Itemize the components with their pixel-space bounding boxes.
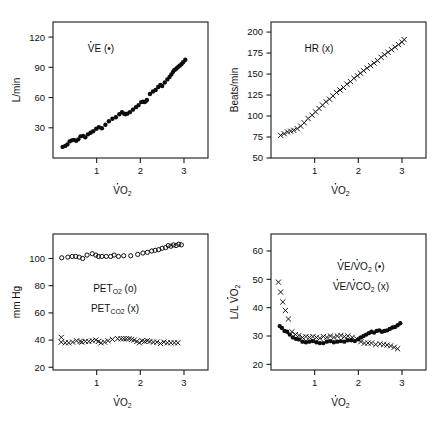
svg-text:VO2​: VO2​ <box>113 397 131 409</box>
x-tick-label: 3 <box>181 165 186 176</box>
x-tick-label: 1 <box>312 165 317 176</box>
x-tick-label: 1 <box>94 165 99 176</box>
y-tick-label: 30 <box>252 330 263 341</box>
svg-text:Beats/min: Beats/min <box>229 68 240 112</box>
y-tick-label: 40 <box>34 334 45 345</box>
y-tick-label: 150 <box>247 68 263 79</box>
y-axis-ticks: 306090120 <box>29 32 53 134</box>
y-tick-label: 125 <box>247 89 263 100</box>
panel-ventilation: 306090120123L/minVO2​VE (•) <box>0 0 218 217</box>
legend: VE/VO2​ (•)VE/VCO2​ (x) <box>333 259 389 293</box>
series-hr <box>278 37 406 137</box>
y-tick-label: 80 <box>34 280 45 291</box>
y-tick-label: 90 <box>34 62 45 73</box>
y-tick-label: 200 <box>247 26 263 37</box>
x-tick-label: 2 <box>356 377 361 388</box>
series-ve <box>60 58 187 150</box>
y-axis-ticks: 2030405060 <box>252 245 271 369</box>
y-axis-title: L/min <box>11 78 22 102</box>
y-axis-title: Beats/min <box>229 68 240 112</box>
legend-entry: VE/VO2​ (•) <box>337 259 384 273</box>
x-axis-title: VO2​ <box>331 183 349 197</box>
data-layer <box>278 37 406 137</box>
y-tick-label: 100 <box>247 110 263 121</box>
x-tick-label: 2 <box>138 377 143 388</box>
y-tick-label: 30 <box>34 122 45 133</box>
svg-text:HR (x): HR (x) <box>305 43 334 54</box>
svg-text:VO2​: VO2​ <box>331 397 349 409</box>
svg-text:VO2​: VO2​ <box>113 185 131 197</box>
x-tick-label: 2 <box>356 165 361 176</box>
series-petco2 <box>59 335 180 346</box>
x-tick-label: 3 <box>399 165 404 176</box>
y-tick-label: 20 <box>252 359 263 370</box>
y-tick-label: 75 <box>252 131 263 142</box>
y-tick-label: 50 <box>252 274 263 285</box>
panel-heart-rate: 5075100125150175200123Beats/minVO2​HR (x… <box>218 0 436 217</box>
x-axis-ticks: 123 <box>94 370 187 388</box>
x-axis-title: VO2​ <box>113 183 131 197</box>
series-peto2 <box>60 242 184 260</box>
legend: HR (x) <box>305 43 334 54</box>
svg-text:mm Hg: mm Hg <box>11 286 22 318</box>
panel-pet-svg: 20406080100123mm HgVO2​PETO2​ (o)PETCO2​… <box>0 212 218 429</box>
plot-frame <box>53 22 208 158</box>
x-axis-ticks: 123 <box>94 158 187 176</box>
x-tick-label: 1 <box>312 377 317 388</box>
svg-text:VE/VCO2​ (x): VE/VCO2​ (x) <box>333 281 389 293</box>
x-tick-label: 1 <box>94 377 99 388</box>
y-axis-title: mm Hg <box>11 286 22 318</box>
data-layer <box>60 58 187 150</box>
svg-text:PETCO2​ (x): PETCO2​ (x) <box>91 303 139 315</box>
x-axis-ticks: 123 <box>312 158 405 176</box>
x-axis-ticks: 123 <box>312 370 405 388</box>
svg-text:L/min: L/min <box>11 78 22 102</box>
y-tick-label: 50 <box>252 152 263 163</box>
x-tick-label: 3 <box>399 377 404 388</box>
x-tick-label: 2 <box>138 165 143 176</box>
y-axis-ticks: 5075100125150175200 <box>247 26 271 163</box>
svg-text:VE (•): VE (•) <box>88 43 114 54</box>
x-axis-title: VO2​ <box>331 395 349 409</box>
legend-entry: HR (x) <box>305 43 334 54</box>
panel-equiv-svg: 2030405060123L/L VO2​VO2​VE/VO2​ (•)VE/V… <box>218 212 436 429</box>
panel-ventilatory-equivalents: 2030405060123L/L VO2​VO2​VE/VO2​ (•)VE/V… <box>218 212 436 429</box>
x-axis-title: VO2​ <box>113 395 131 409</box>
y-axis-ticks: 20406080100 <box>29 253 53 373</box>
exercise-physiology-figure: 306090120123L/minVO2​VE (•) 507510012515… <box>0 0 436 429</box>
legend-entry: PETCO2​ (x) <box>91 303 139 315</box>
y-tick-label: 175 <box>247 47 263 58</box>
y-axis-title: L/L VO2​ <box>227 285 241 320</box>
svg-text:PETO2​ (o): PETO2​ (o) <box>93 283 137 295</box>
legend-entry: VE/VCO2​ (x) <box>333 279 389 293</box>
svg-text:VE/VO2​ (•): VE/VO2​ (•) <box>337 261 384 273</box>
svg-text:L/L VO2​: L/L VO2​ <box>229 285 241 320</box>
legend-entry: PETO2​ (o) <box>93 283 137 295</box>
y-tick-label: 100 <box>29 253 45 264</box>
panel-ve-svg: 306090120123L/minVO2​VE (•) <box>0 0 218 217</box>
panel-hr-svg: 5075100125150175200123Beats/minVO2​HR (x… <box>218 0 436 217</box>
plot-frame <box>271 234 426 370</box>
x-tick-label: 3 <box>181 377 186 388</box>
y-tick-label: 20 <box>34 362 45 373</box>
panel-end-tidal-pressures: 20406080100123mm HgVO2​PETO2​ (o)PETCO2​… <box>0 212 218 429</box>
legend: PETO2​ (o)PETCO2​ (x) <box>91 283 139 315</box>
legend-entry: VE (•) <box>88 41 114 54</box>
svg-text:VO2​: VO2​ <box>331 185 349 197</box>
y-tick-label: 120 <box>29 32 45 43</box>
legend: VE (•) <box>88 41 114 54</box>
y-tick-label: 60 <box>34 92 45 103</box>
y-tick-label: 60 <box>252 245 263 256</box>
y-tick-label: 60 <box>34 307 45 318</box>
y-tick-label: 40 <box>252 302 263 313</box>
